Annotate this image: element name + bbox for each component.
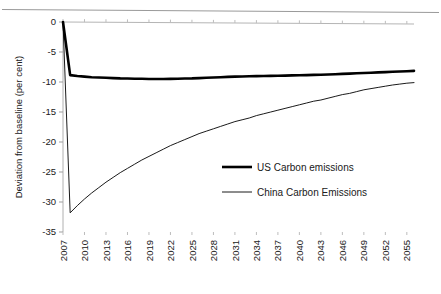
x-tick-label: 2046 [337, 240, 348, 261]
x-tick-label: 2019 [144, 240, 155, 261]
legend-label-china: China Carbon Emissions [257, 187, 367, 198]
y-tick-label: 0 [51, 16, 56, 27]
x-tick-label: 2010 [79, 240, 90, 261]
carbon-emissions-chart: 0-5-10-15-20-25-30-35 200720102013201620… [0, 0, 441, 294]
x-tick-label: 2052 [380, 240, 391, 261]
series-line-china [63, 22, 414, 213]
x-tick-label: 2049 [358, 240, 369, 261]
y-tick-label: -15 [42, 106, 56, 117]
x-tick-label: 2037 [272, 240, 283, 261]
x-tick-label: 2031 [230, 240, 241, 261]
chart-legend: US Carbon emissionsChina Carbon Emission… [222, 162, 367, 198]
y-tick-label: -35 [42, 226, 56, 237]
x-tick-label: 2007 [58, 240, 69, 261]
y-axis-ticks [59, 22, 63, 232]
x-axis-tick-labels: 2007201020132016201920222025202820312034… [58, 240, 413, 261]
y-tick-label: -20 [42, 136, 56, 147]
y-tick-label: -10 [42, 76, 56, 87]
y-axis-tick-labels: 0-5-10-15-20-25-30-35 [42, 16, 56, 237]
x-tick-label: 2013 [101, 240, 112, 261]
zero-axis-line [63, 22, 414, 24]
x-tick-label: 2016 [122, 240, 133, 261]
y-tick-label: -30 [42, 196, 56, 207]
x-tick-label: 2040 [294, 240, 305, 261]
x-tick-label: 2034 [251, 240, 262, 261]
series-line-us [63, 22, 414, 79]
legend-label-us: US Carbon emissions [257, 162, 354, 173]
y-tick-label: -5 [48, 46, 56, 57]
x-tick-label: 2025 [187, 240, 198, 261]
page-rule-artifact [2, 10, 439, 13]
x-tick-label: 2028 [208, 240, 219, 261]
x-axis-ticks [63, 19, 407, 235]
x-tick-label: 2022 [165, 240, 176, 261]
y-tick-label: -25 [42, 166, 56, 177]
x-tick-label: 2043 [315, 240, 326, 261]
y-axis-title: Deviation from baseline (per cent) [13, 56, 24, 199]
chart-canvas: 0-5-10-15-20-25-30-35 200720102013201620… [0, 0, 441, 294]
data-series-group [63, 22, 414, 213]
x-tick-label: 2055 [401, 240, 412, 261]
